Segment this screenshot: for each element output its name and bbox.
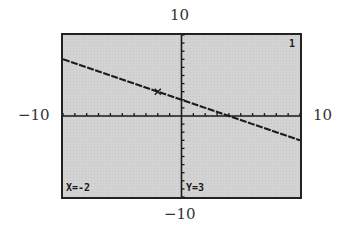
- y-max-label: 10: [170, 6, 189, 24]
- plot-indicator: 1: [289, 38, 295, 49]
- trace-y-value: Y=3: [186, 182, 204, 193]
- y-min-label: −10: [164, 205, 196, 223]
- calculator-screen: 1 X=-2 Y=3: [61, 33, 302, 199]
- x-max-label: 10: [313, 106, 332, 124]
- trace-x-value: X=-2: [66, 182, 90, 193]
- graph-plot: [63, 35, 300, 197]
- x-min-label: −10: [18, 106, 50, 124]
